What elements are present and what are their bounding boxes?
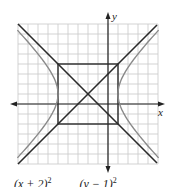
- y-axis-label: y: [111, 10, 117, 22]
- y-axis-up-arrow-icon: [106, 12, 111, 19]
- equation-left-term: (x + 2): [14, 177, 47, 187]
- x-axis: [10, 102, 165, 107]
- hyperbola-graph: y x: [0, 0, 169, 187]
- x-axis-left-arrow-icon: [10, 102, 17, 107]
- equation-right-exponent: 2: [113, 176, 117, 185]
- equation-right-term: (y − 1): [79, 177, 112, 187]
- equation-left-exponent: 2: [47, 176, 51, 185]
- y-axis: [106, 12, 111, 173]
- y-axis-down-arrow-icon: [106, 166, 111, 173]
- equation-partial: (x + 2)2 (y − 1)2: [14, 176, 117, 187]
- x-axis-label: x: [157, 106, 163, 118]
